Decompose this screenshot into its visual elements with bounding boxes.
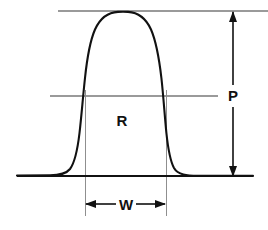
peak-width-arrowhead-left — [85, 200, 96, 208]
peak-diagram: R P W — [0, 0, 268, 230]
peak-width-arrowhead-right — [155, 200, 166, 208]
peak-diagram-canvas: R P W — [0, 0, 268, 230]
region-label: R — [117, 112, 128, 129]
peak-width-label: W — [119, 196, 134, 213]
peak-height-arrowhead-top — [229, 11, 237, 22]
peak-height-label: P — [228, 87, 238, 104]
peak-curve — [17, 12, 253, 176]
